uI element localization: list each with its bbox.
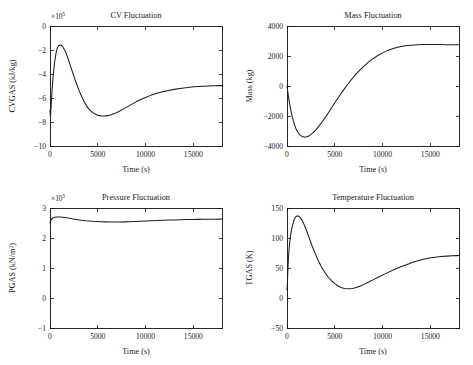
y-tick-label: −6	[38, 94, 46, 103]
y-tick-label: −1	[38, 324, 46, 333]
y-tick-label: 0	[279, 82, 283, 91]
y-tick-label: 0	[42, 22, 46, 31]
subplot-title: Temperature Fluctuation	[332, 193, 415, 202]
y-tick-label: 1	[42, 264, 46, 273]
subplot-title: Mass Fluctuation	[344, 11, 402, 20]
y-tick-label: 2000	[268, 52, 283, 61]
x-tick-label: 0	[48, 150, 52, 159]
x-axis-title: Time (s)	[359, 347, 387, 356]
x-tick-label: 5000	[90, 150, 105, 159]
y-tick-label: 100	[272, 234, 284, 243]
x-tick-label: 0	[285, 332, 289, 341]
x-tick-label: 5000	[327, 332, 342, 341]
y-tick-label: −4000	[264, 142, 284, 151]
subplot-cv-fluctuation: CV Fluctuation×1050500010000150000−2−4−6…	[0, 0, 236, 182]
plot-frame	[50, 208, 222, 328]
subplot-title: CV Fluctuation	[110, 11, 162, 20]
figure-container: CV Fluctuation×1050500010000150000−2−4−6…	[0, 0, 473, 365]
x-tick-label: 0	[48, 332, 52, 341]
y-axis-exponent: ×105	[51, 193, 66, 203]
plot-frame	[287, 208, 459, 328]
x-axis-title: Time (s)	[359, 165, 387, 174]
y-axis-title: CVGAS (kJ/kg)	[8, 59, 17, 112]
y-axis-title: Mass (kg)	[245, 69, 254, 102]
y-axis-exponent: ×105	[51, 11, 66, 21]
data-series-line	[287, 216, 459, 290]
y-tick-label: −50	[271, 324, 283, 333]
x-tick-label: 5000	[90, 332, 105, 341]
x-tick-label: 15000	[184, 332, 203, 341]
x-tick-label: 10000	[373, 150, 392, 159]
y-tick-label: 150	[272, 204, 284, 213]
data-series-line	[287, 45, 459, 137]
y-tick-label: 50	[275, 264, 283, 273]
subplot-temperature-fluctuation: Temperature Fluctuation05000100001500015…	[237, 182, 473, 364]
x-tick-label: 10000	[136, 150, 155, 159]
x-tick-label: 10000	[136, 332, 155, 341]
x-tick-label: 15000	[421, 332, 440, 341]
svg-text:×105: ×105	[51, 193, 66, 203]
x-axis-title: Time (s)	[122, 347, 150, 356]
y-tick-label: −4	[38, 70, 46, 79]
y-tick-label: −2000	[264, 112, 284, 121]
plot-frame	[287, 26, 459, 146]
data-series-line	[50, 45, 222, 116]
x-axis-title: Time (s)	[122, 165, 150, 174]
y-tick-label: −8	[38, 118, 46, 127]
subplot-title: Pressure Fluctuation	[102, 193, 171, 202]
y-tick-label: −2	[38, 46, 46, 55]
y-tick-label: −10	[34, 142, 46, 151]
y-axis-title: TGAS (K)	[245, 250, 254, 285]
svg-text:×105: ×105	[51, 11, 66, 21]
x-tick-label: 15000	[184, 150, 203, 159]
x-tick-label: 10000	[373, 332, 392, 341]
subplot-mass-fluctuation: Mass Fluctuation050001000015000400020000…	[237, 0, 473, 182]
y-axis-title: PGAS (kN/m2)	[8, 243, 17, 293]
x-tick-label: 15000	[421, 150, 440, 159]
y-tick-label: 2	[42, 234, 46, 243]
y-tick-label: 3	[42, 204, 46, 213]
y-tick-label: 4000	[268, 22, 283, 31]
y-tick-label: 0	[42, 294, 46, 303]
y-tick-label: 0	[279, 294, 283, 303]
x-tick-label: 5000	[327, 150, 342, 159]
data-series-line	[50, 217, 222, 223]
plot-frame	[50, 26, 222, 146]
x-tick-label: 0	[285, 150, 289, 159]
subplot-pressure-fluctuation: Pressure Fluctuation×1050500010000150003…	[0, 182, 236, 364]
